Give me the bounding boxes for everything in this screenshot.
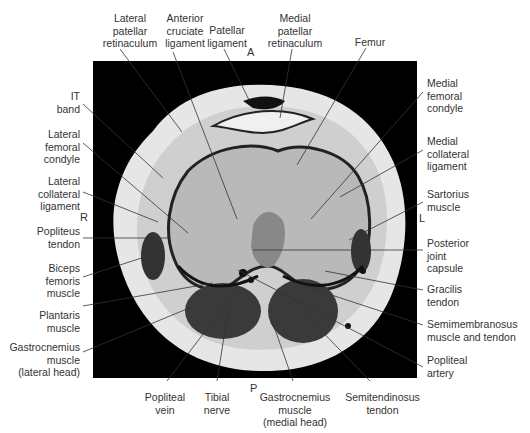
label-medial-collateral-ligament: Medial collateral ligament [427,135,527,173]
label-femur: Femur [345,36,395,49]
label-popliteus-tendon: Popliteus tendon [0,225,80,250]
label-plantaris-muscle: Plantaris muscle [0,309,80,334]
label-gastrocnemius-medial-head: Gastrocnemius muscle (medial head) [250,391,340,429]
orientation-right: R [80,211,88,223]
label-medial-patellar-retinaculum: Medial patellar retinaculum [265,12,325,50]
label-semitendinosus-tendon: Semitendinosus tendon [335,391,430,416]
label-popliteal-artery: Popliteal artery [427,354,527,379]
label-medial-femoral-condyle: Medial femoral condyle [427,77,527,115]
label-lateral-collateral-ligament: Lateral collateral ligament [0,175,80,213]
label-gracilis-tendon: Gracilis tendon [427,283,527,308]
label-semimembranosus: Semimembranosus muscle and tendon [427,318,530,343]
label-it-band: IT band [0,90,80,115]
label-lateral-femoral-condyle: Lateral femoral condyle [0,128,80,166]
orientation-left: L [419,212,425,224]
label-popliteal-vein: Popliteal vein [135,391,195,416]
label-patellar-ligament: Patellar ligament [202,24,252,49]
label-sartorius-muscle: Sartorius muscle [427,188,527,213]
label-posterior-joint-capsule: Posterior joint capsule [427,237,527,275]
label-gastrocnemius-lateral-head: Gastrocnemius muscle (lateral head) [0,341,80,379]
label-biceps-femoris-muscle: Biceps femoris muscle [0,262,80,300]
label-tibial-nerve: Tibial nerve [192,391,242,416]
